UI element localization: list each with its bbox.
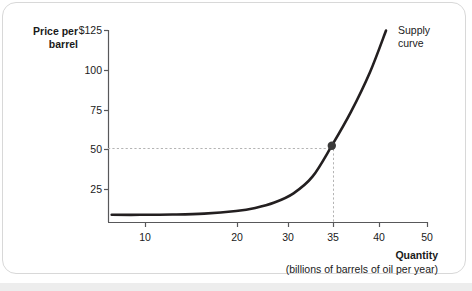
supply-curve-line [112,31,386,215]
equilibrium-point-marker [328,142,336,150]
y-tick-marks [104,31,108,190]
chart-page: Price per barrel $125 100 75 50 25 10 20… [0,0,472,291]
chart-plot [0,0,472,291]
